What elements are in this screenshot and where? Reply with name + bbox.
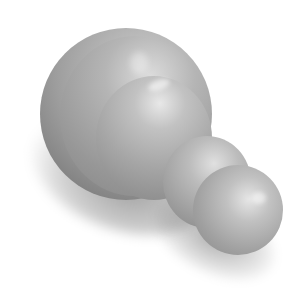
small-sphere-front	[193, 165, 283, 255]
sphere-highlight	[252, 192, 266, 204]
dome-specular-highlight	[130, 52, 148, 74]
